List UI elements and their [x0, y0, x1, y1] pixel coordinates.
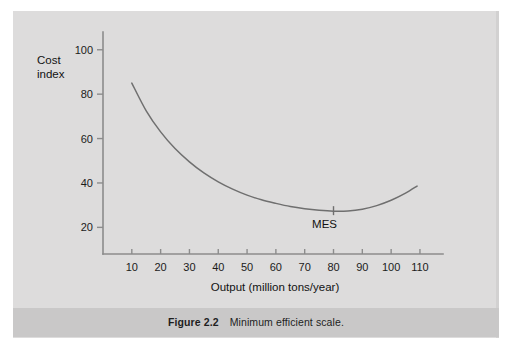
y-tick-label: 60	[81, 133, 93, 145]
mes-label: MES	[312, 218, 337, 230]
x-tick-label: 50	[241, 261, 253, 273]
figure-root: 20406080100 102030405060708090100110 MES…	[0, 0, 512, 353]
cost-curve-chart: 20406080100 102030405060708090100110 MES…	[13, 11, 499, 311]
x-tick-label: 70	[299, 261, 311, 273]
x-tick-label: 40	[212, 261, 224, 273]
y-axis-title-line1: Cost	[37, 54, 61, 66]
chart-axes	[103, 32, 443, 254]
y-tick-label: 80	[81, 88, 93, 100]
y-tick-label: 20	[81, 221, 93, 233]
x-tick-label: 90	[356, 261, 368, 273]
figure-caption-text: Minimum efficient scale.	[230, 316, 344, 328]
figure-caption-label: Figure 2.2	[168, 316, 219, 328]
y-tick-label: 100	[75, 44, 93, 56]
x-tick-label: 10	[126, 261, 138, 273]
x-tick-label: 20	[155, 261, 167, 273]
y-axis-ticks: 20406080100	[75, 44, 103, 234]
x-tick-label: 80	[327, 261, 339, 273]
cost-curve-line	[132, 83, 417, 211]
x-tick-label: 60	[270, 261, 282, 273]
x-axis-ticks: 102030405060708090100110	[126, 249, 429, 273]
x-tick-label: 100	[382, 261, 400, 273]
figure-caption-band: Figure 2.2Minimum efficient scale.	[13, 308, 499, 337]
y-tick-label: 40	[81, 177, 93, 189]
x-tick-label: 30	[183, 261, 195, 273]
x-axis-title: Output (million tons/year)	[211, 281, 340, 293]
figure-caption: Figure 2.2Minimum efficient scale.	[13, 308, 499, 337]
x-tick-label: 110	[411, 261, 429, 273]
y-axis-title-line2: index	[37, 68, 65, 80]
